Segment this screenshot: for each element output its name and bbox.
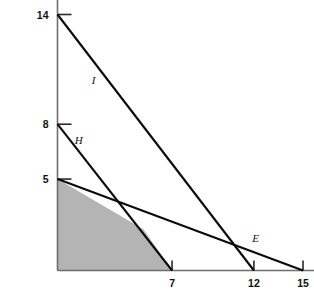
x-axis-tick-label: 7 [169,277,175,289]
y-axis-tick-labels: 5814 [37,9,49,186]
line-label-h: H [74,134,84,146]
line-label-i: I [91,74,97,86]
chart-container: 5814 71215 IHE [0,0,314,297]
y-axis-tick-label: 8 [43,118,49,130]
x-axis-tick-marks [172,261,303,271]
chart-plot-area: 5814 71215 IHE [0,0,314,297]
feasible-region-shading [58,179,173,270]
line-label-e: E [251,232,259,244]
y-axis-tick-label: 14 [37,9,49,21]
y-axis-tick-marks [58,15,72,180]
y-axis-tick-label: 5 [43,173,49,185]
x-axis-tick-label: 12 [248,277,260,289]
x-axis-tick-label: 15 [297,277,309,289]
x-axis-tick-labels: 71215 [169,277,309,289]
